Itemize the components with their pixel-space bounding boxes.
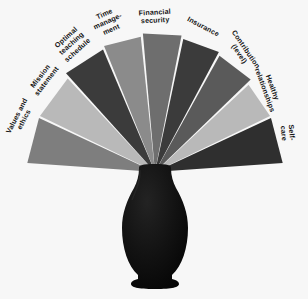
diagram-canvas: Values and ethicsMission statementOptima… <box>0 0 308 299</box>
fan-diagram <box>0 0 308 299</box>
